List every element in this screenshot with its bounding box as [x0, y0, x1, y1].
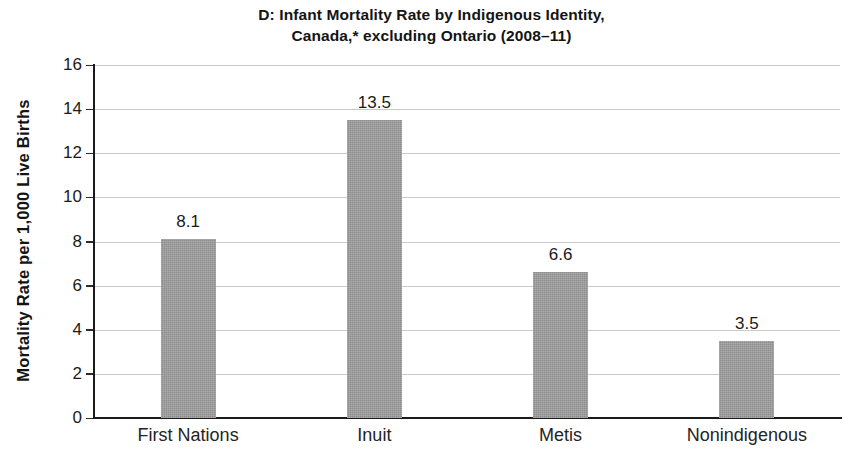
y-axis-tick-label-text: 4 [42, 321, 82, 338]
y-axis-title-text: Mortality Rate per 1,000 Live Births [14, 99, 33, 381]
infant-mortality-bar-chart: D: Infant Mortality Rate by Indigenous I… [0, 0, 863, 469]
y-axis-tick-label-text: 14 [42, 100, 82, 117]
y-axis-tick-label-text: 2 [42, 365, 82, 382]
chart-title-line-1: D: Infant Mortality Rate by Indigenous I… [0, 4, 863, 25]
bar[interactable] [533, 272, 588, 418]
y-axis-tick-label-text: 0 [42, 409, 82, 426]
y-axis-tick-label-text: 16 [42, 56, 82, 73]
bar-value-label: 8.1 [138, 213, 238, 231]
bar-value-label: 13.5 [324, 94, 424, 112]
chart-title-line-2: Canada,* excluding Ontario (2008–11) [0, 25, 863, 46]
y-axis-tick-label-text: 12 [42, 144, 82, 161]
bar[interactable] [347, 120, 402, 418]
x-axis-category-label: Inuit [274, 424, 474, 446]
bar-value-label: 6.6 [511, 246, 611, 264]
chart-title: D: Infant Mortality Rate by Indigenous I… [0, 4, 863, 46]
y-axis-title: Mortality Rate per 1,000 Live Births [8, 60, 38, 420]
plot-area [95, 65, 840, 418]
x-axis-category-label: Nonindigenous [647, 424, 847, 446]
bar[interactable] [719, 341, 774, 418]
y-axis-tick-label-text: 6 [42, 277, 82, 294]
x-axis-category-label: Metis [461, 424, 661, 446]
x-axis-category-label: First Nations [88, 424, 288, 446]
bar-value-label: 3.5 [697, 315, 797, 333]
y-axis-tick-label-text: 8 [42, 233, 82, 250]
y-axis-tick-label-text: 10 [42, 188, 82, 205]
bar[interactable] [161, 239, 216, 418]
